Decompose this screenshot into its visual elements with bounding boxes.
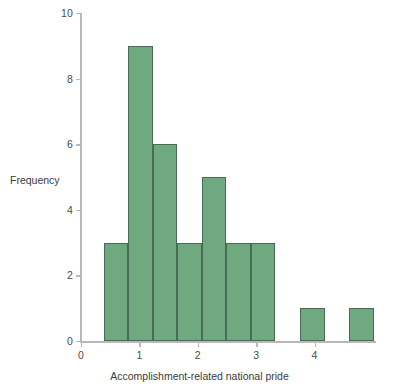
x-tick-label: 4 bbox=[312, 349, 318, 361]
y-tick-label: 4 bbox=[67, 204, 73, 216]
x-tick-mark bbox=[256, 342, 257, 347]
x-tick-label: 3 bbox=[253, 349, 259, 361]
x-tick-label: 0 bbox=[78, 349, 84, 361]
x-tick-mark bbox=[315, 342, 316, 347]
histogram-figure: 0246810 01234 Frequency Accomplishment-r… bbox=[0, 0, 399, 390]
y-tick-label: 8 bbox=[67, 73, 73, 85]
y-axis-line bbox=[80, 13, 82, 342]
y-tick-mark bbox=[76, 275, 81, 276]
y-tick-mark bbox=[76, 79, 81, 80]
y-tick-label: 2 bbox=[67, 269, 73, 281]
histogram-bar bbox=[104, 243, 129, 341]
y-tick-label: 10 bbox=[61, 7, 73, 19]
histogram-bar bbox=[251, 243, 276, 341]
histogram-bar bbox=[177, 243, 202, 341]
histogram-bar bbox=[300, 308, 325, 341]
plot-area: 0246810 01234 bbox=[81, 13, 373, 341]
histogram-bar bbox=[202, 177, 227, 341]
histogram-bar bbox=[128, 46, 153, 341]
x-tick-mark bbox=[198, 342, 199, 347]
histogram-bar bbox=[153, 144, 178, 341]
y-tick-label: 0 bbox=[67, 335, 73, 347]
x-axis-line bbox=[80, 341, 376, 343]
y-axis-title: Frequency bbox=[10, 174, 60, 186]
histogram-bar bbox=[226, 243, 251, 341]
y-tick-mark bbox=[76, 210, 81, 211]
x-tick-mark bbox=[139, 342, 140, 347]
x-axis-title: Accomplishment-related national pride bbox=[0, 370, 399, 382]
y-tick-mark bbox=[76, 144, 81, 145]
x-tick-label: 2 bbox=[195, 349, 201, 361]
x-tick-label: 1 bbox=[136, 349, 142, 361]
histogram-bar bbox=[349, 308, 374, 341]
x-tick-mark bbox=[81, 342, 82, 347]
y-tick-mark bbox=[76, 13, 81, 14]
y-tick-label: 6 bbox=[67, 138, 73, 150]
